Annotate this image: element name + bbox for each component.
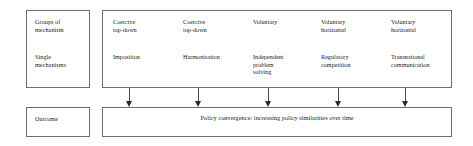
outcome-text: Policy convergence: increasing policy si… [103,114,451,122]
mechanism-label-column-2: Harmonisation [183,53,220,61]
mechanism-label-column-5: Transnational communication [391,53,430,68]
group-label-column-3: Voluntary [253,18,277,26]
row-label-single-mechanisms: Single mechanisms [35,53,66,68]
row-label-outcome: Outcome [35,115,58,123]
arrow-shaft [405,88,406,102]
group-label-column-4: Voluntary horizontal [321,18,346,33]
arrow-down-icon-3 [264,88,273,107]
mechanism-label-column-3: Independent problem solving [253,53,284,76]
row-label-groups: Groups of mechanism [35,18,64,33]
group-label-column-2: Coercive top-down [183,18,207,33]
mechanism-label-column-1: Imposition [113,53,140,61]
arrow-down-icon-5 [401,88,410,107]
outcome-box: Policy convergence: increasing policy si… [102,107,452,137]
row-labels-box: Groups of mechanism Single mechanisms [26,10,90,88]
arrow-shaft [129,88,130,102]
mechanism-label-column-4: Regulatory competition [321,53,351,68]
arrow-down-icon-2 [194,88,203,107]
mechanisms-box: Coercive top-down Coercive top-down Volu… [102,10,452,88]
arrow-shaft [198,88,199,102]
arrow-down-icon-1 [125,88,134,107]
arrow-shaft [338,88,339,102]
group-label-column-5: Voluntary horizontal [391,18,416,33]
policy-convergence-diagram: Groups of mechanism Single mechanisms Ou… [0,0,473,146]
arrow-shaft [268,88,269,102]
outcome-label-box: Outcome [26,107,90,137]
group-label-column-1: Coercive top-down [113,18,137,33]
arrow-down-icon-4 [334,88,343,107]
